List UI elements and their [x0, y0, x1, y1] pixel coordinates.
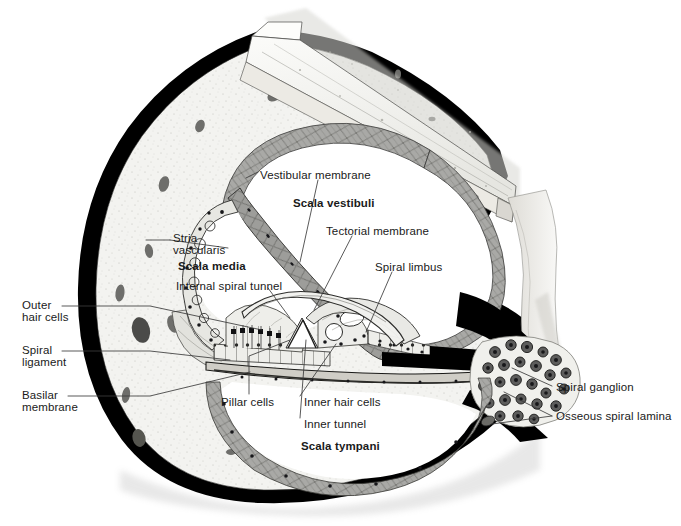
- label-inner-hair-cells: Inner hair cells: [304, 396, 381, 408]
- label-outer-hair-cells-line1: Outer: [22, 299, 51, 311]
- label-tectorial-membrane: Tectorial membrane: [326, 225, 429, 237]
- label-scala-media: Scala media: [178, 260, 246, 272]
- label-vascularis: vascularis: [173, 244, 225, 256]
- label-basilar-membrane-line1: Basilar: [22, 389, 58, 401]
- label-outer-hair-cells-line2: hair cells: [22, 311, 69, 323]
- label-scala-tympani: Scala tympani: [301, 440, 380, 452]
- figure-canvas: Vestibular membrane Scala vestibuli Tect…: [0, 0, 681, 526]
- label-vestibular-membrane: Vestibular membrane: [260, 169, 371, 181]
- label-spiral-ganglion: Spiral ganglion: [556, 381, 634, 393]
- label-spiral-limbus: Spiral limbus: [375, 261, 442, 273]
- label-scala-vestibuli: Scala vestibuli: [293, 197, 375, 209]
- label-spiral-ligament-line1: Spiral: [22, 344, 52, 356]
- label-stria: Stria: [173, 232, 197, 244]
- label-pillar-cells: Pillar cells: [221, 396, 274, 408]
- label-spiral-ligament-line2: ligament: [22, 356, 66, 368]
- label-basilar-membrane-line2: membrane: [22, 401, 78, 413]
- label-internal-spiral-tunnel: Internal spiral tunnel: [176, 280, 282, 292]
- label-osseous-spiral-lamina: Osseous spiral lamina: [556, 410, 672, 422]
- label-inner-tunnel: Inner tunnel: [304, 418, 366, 430]
